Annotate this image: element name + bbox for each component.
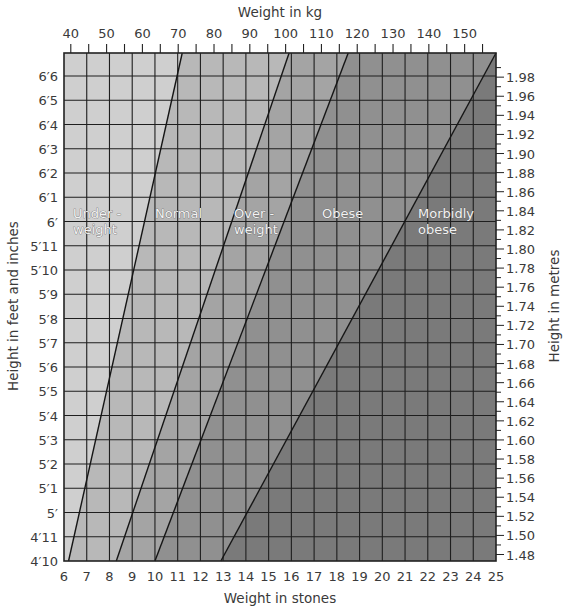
feet-inches-tick-label: 5′ [47,506,58,521]
feet-inches-axis: 4′104′115′5′15′25′35′45′55′65′75′85′95′1… [30,69,58,569]
metres-tick-label: 1.72 [506,318,535,333]
feet-inches-tick-label: 6′2 [39,166,59,181]
feet-inches-tick-label: 5′3 [39,433,59,448]
metres-tick-label: 1.56 [506,471,535,486]
zone-label-text: Under - [73,206,121,221]
feet-inches-tick-label: 5′6 [39,360,59,375]
stones-tick-label: 20 [374,569,391,584]
stones-tick-label: 16 [283,569,300,584]
metres-tick-label: 1.84 [506,204,535,219]
stones-tick-label: 8 [105,569,113,584]
metres-tick-label: 1.74 [506,299,535,314]
kg-tick-label: 60 [134,26,151,41]
metres-tick-label: 1.80 [506,242,535,257]
stones-tick-label: 7 [83,569,91,584]
kg-axis: 405060708090100110120130140150 [63,26,483,53]
stones-tick-label: 13 [215,569,232,584]
bmi-chart: 405060708090100110120130140150 678910111… [0,0,573,611]
stones-tick-label: 24 [465,569,482,584]
feet-inches-tick-label: 5′10 [30,263,58,278]
feet-inches-tick-label: 5′4 [39,409,59,424]
kg-tick-label: 150 [452,26,477,41]
metres-tick-label: 1.52 [506,509,535,524]
kg-axis-title: Weight in kg [238,4,322,20]
metres-axis: 1.481.501.521.541.561.581.601.621.641.66… [496,68,535,563]
metres-tick-label: 1.88 [506,166,535,181]
kg-tick-label: 40 [63,26,80,41]
metres-tick-label: 1.92 [506,127,535,142]
stones-tick-label: 10 [147,569,164,584]
stones-tick-label: 18 [329,569,346,584]
bmi-zones [64,53,496,561]
metres-tick-label: 1.64 [506,395,535,410]
stones-tick-label: 12 [192,569,209,584]
metres-axis-title: Height in metres [546,250,562,363]
feet-inches-axis-title: Height in feet and inches [5,221,21,391]
metres-tick-label: 1.68 [506,357,535,372]
kg-tick-label: 120 [345,26,370,41]
stones-tick-label: 25 [488,569,505,584]
metres-tick-label: 1.60 [506,433,535,448]
zone-label-text: Over - [234,206,274,221]
stones-tick-label: 14 [238,569,255,584]
kg-tick-label: 130 [381,26,406,41]
kg-tick-label: 70 [170,26,187,41]
feet-inches-tick-label: 6′4 [39,118,59,133]
feet-inches-tick-label: 5′8 [39,312,59,327]
feet-inches-tick-label: 5′11 [30,239,58,254]
stones-tick-label: 22 [420,569,437,584]
kg-tick-label: 100 [273,26,298,41]
metres-tick-label: 1.48 [506,548,535,563]
metres-tick-label: 1.98 [506,70,535,85]
metres-tick-label: 1.76 [506,280,535,295]
zone-label-text: weight [234,222,278,237]
feet-inches-tick-label: 6′1 [39,190,59,205]
stones-tick-label: 11 [169,569,186,584]
kg-tick-label: 90 [242,26,259,41]
metres-tick-label: 1.62 [506,414,535,429]
stones-tick-label: 9 [128,569,136,584]
zone-label-text: Obese [322,206,363,221]
feet-inches-tick-label: 6′6 [39,69,59,84]
zone-label-text: obese [418,222,457,237]
feet-inches-tick-label: 6′3 [39,142,59,157]
metres-tick-label: 1.94 [506,108,535,123]
stones-tick-label: 17 [306,569,323,584]
stones-tick-label: 6 [60,569,68,584]
zone-label-text: Morbidly [418,206,474,221]
stones-axis-title: Weight in stones [224,590,336,606]
feet-inches-tick-label: 5′7 [39,336,59,351]
feet-inches-tick-label: 4′10 [30,554,58,569]
stones-tick-label: 15 [260,569,277,584]
kg-tick-label: 140 [416,26,441,41]
metres-tick-label: 1.90 [506,147,535,162]
kg-tick-label: 80 [206,26,223,41]
feet-inches-tick-label: 6′ [47,215,58,230]
feet-inches-tick-label: 5′9 [39,287,59,302]
feet-inches-tick-label: 5′1 [39,481,59,496]
stones-tick-label: 19 [351,569,368,584]
metres-tick-label: 1.96 [506,89,535,104]
kg-tick-label: 110 [309,26,334,41]
metres-tick-label: 1.66 [506,376,535,391]
feet-inches-tick-label: 6′5 [39,93,59,108]
metres-tick-label: 1.54 [506,490,535,505]
feet-inches-tick-label: 4′11 [30,530,58,545]
metres-tick-label: 1.82 [506,223,535,238]
metres-tick-label: 1.50 [506,528,535,543]
feet-inches-tick-label: 5′2 [39,457,59,472]
zone-label-text: Normal [155,206,202,221]
metres-tick-label: 1.70 [506,337,535,352]
feet-inches-tick-label: 5′5 [39,384,59,399]
zone-label-text: weight [73,222,117,237]
stones-tick-label: 23 [442,569,459,584]
metres-tick-label: 1.86 [506,185,535,200]
kg-tick-label: 50 [98,26,115,41]
stones-tick-label: 21 [397,569,414,584]
metres-tick-label: 1.58 [506,452,535,467]
stones-axis: 678910111213141516171819202122232425 [60,569,504,584]
metres-tick-label: 1.78 [506,261,535,276]
